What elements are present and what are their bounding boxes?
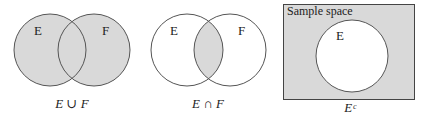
union-diagram: E F E ∪ F <box>14 14 130 111</box>
set-label-e: E <box>170 23 178 38</box>
intersection-diagram: E F E ∩ F <box>151 14 266 111</box>
sample-space-label: Sample space <box>287 4 353 18</box>
complement-diagram: Sample space E Eᶜ <box>284 4 415 115</box>
caption-union: E ∪ F <box>54 96 89 111</box>
venn-diagrams: E F E ∪ F E F E ∩ F Sample space E Eᶜ <box>0 0 431 116</box>
set-label-e: E <box>336 28 344 43</box>
set-label-e: E <box>34 23 42 38</box>
caption-intersection: E ∩ F <box>191 96 225 111</box>
caption-complement: Eᶜ <box>343 100 357 115</box>
set-label-f: F <box>238 23 245 38</box>
set-label-f: F <box>102 23 109 38</box>
